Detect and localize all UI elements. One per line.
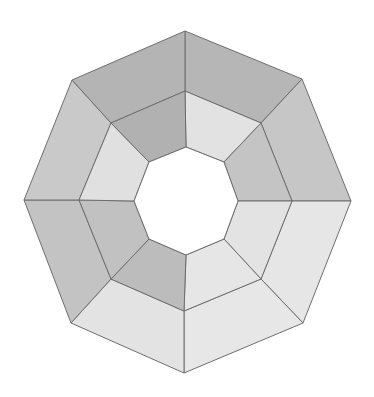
center-hole: [134, 147, 238, 255]
octagon-ring-diagram: [0, 0, 374, 397]
diagram-canvas: [0, 0, 374, 397]
